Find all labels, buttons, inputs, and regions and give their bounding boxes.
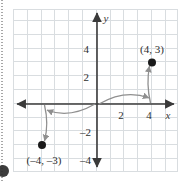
- point-label-a: (4, 3): [140, 43, 164, 56]
- coordinate-plane: 2 4 4 2 –2 –4 x y (4, 3) (–4, –3): [13, 9, 178, 172]
- tick-label-y-neg4: –4: [79, 154, 92, 166]
- tick-label-y-neg2: –2: [79, 126, 91, 138]
- scan-ink-blob-artifact: [0, 165, 9, 177]
- scan-edge-dots-artifact: [1, 0, 3, 181]
- axis-label-y: y: [103, 12, 109, 24]
- grid-lines: [13, 9, 178, 172]
- point-label-b: (–4, –3): [27, 154, 62, 167]
- data-point-a: [148, 59, 156, 67]
- figure-canvas: 2 4 4 2 –2 –4 x y (4, 3) (–4, –3): [0, 0, 189, 181]
- axis-label-x: x: [165, 109, 171, 121]
- tick-label-y-2: 2: [84, 71, 90, 83]
- arc-left-arrow: [47, 104, 95, 113]
- arrow-down-to-point-b: [45, 105, 47, 141]
- tick-label-y-4: 4: [84, 43, 90, 55]
- tick-label-x-4: 4: [146, 109, 152, 121]
- tick-label-x-2: 2: [118, 109, 124, 121]
- data-point-b: [38, 141, 46, 149]
